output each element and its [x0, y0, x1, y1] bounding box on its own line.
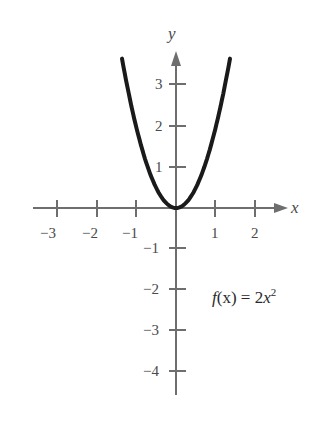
x-tick-label: −3: [40, 225, 56, 241]
y-tick-label: 1: [155, 159, 163, 175]
func-eq: = 2: [237, 288, 264, 307]
function-annotation: f(x) = 2x2: [212, 286, 276, 308]
y-axis-arrow-icon: [171, 51, 181, 66]
x-axis-arrow-icon: [274, 203, 288, 213]
func-exp: 2: [271, 286, 277, 298]
y-tick-label: −3: [143, 322, 159, 338]
x-tick-label: −2: [82, 225, 98, 241]
y-tick-label: 2: [155, 118, 163, 134]
func-arg: (x): [217, 288, 237, 307]
y-tick-label: −4: [143, 363, 159, 379]
function-plot: −3 −2 −1 1 2 3 2 1 −1 −2 −3 −4 x y: [0, 0, 314, 421]
y-tick-label: −2: [143, 281, 159, 297]
x-tick-label: 2: [251, 225, 259, 241]
y-ticks: [169, 84, 186, 371]
x-tick-label: −1: [122, 225, 138, 241]
y-tick-label: −1: [143, 240, 159, 256]
func-var: x: [263, 288, 271, 307]
y-axis-label: y: [166, 24, 176, 43]
y-tick-label: 3: [155, 76, 163, 92]
x-tick-label: 1: [211, 225, 219, 241]
x-axis-label: x: [290, 198, 299, 217]
